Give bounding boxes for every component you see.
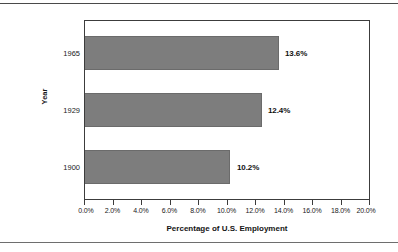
- x-tick: [227, 200, 228, 205]
- x-tick: [341, 200, 342, 205]
- x-axis-tick-label: 0.0%: [78, 207, 93, 214]
- bar-chart-figure: Year 1965 1929 1900 13.6% 12.4% 10.2%: [0, 0, 398, 252]
- bars-layer: 13.6% 12.4% 10.2%: [85, 21, 370, 200]
- bar-1900[interactable]: [85, 150, 230, 184]
- x-axis-tick-label: 8.0%: [190, 207, 205, 214]
- y-axis-tick-label: 1929: [50, 106, 80, 115]
- x-tick: [170, 200, 171, 205]
- x-axis-tick-label: 12.0%: [245, 207, 264, 214]
- x-axis-tick-label: 20.0%: [356, 207, 375, 214]
- bar-value-label: 13.6%: [285, 49, 307, 58]
- x-axis-tick-label: 6.0%: [162, 207, 177, 214]
- x-tick: [312, 200, 313, 205]
- x-tick: [141, 200, 142, 205]
- x-tick: [255, 200, 256, 205]
- bar-value-label: 12.4%: [268, 106, 290, 115]
- x-axis-tick-label: 16.0%: [302, 207, 321, 214]
- y-axis-category-labels: 1965 1929 1900: [48, 21, 80, 200]
- x-axis-tick-label: 14.0%: [274, 207, 293, 214]
- x-axis-tick-label: 18.0%: [331, 207, 350, 214]
- x-axis-tick-label: 10.0%: [217, 207, 236, 214]
- x-axis-tick-labels: 0.0% 2.0% 4.0% 6.0% 8.0% 10.0% 12.0% 14.…: [84, 207, 370, 219]
- x-axis-tick-label: 4.0%: [133, 207, 148, 214]
- x-axis-tick-label: 2.0%: [105, 207, 120, 214]
- bar-1965[interactable]: [85, 36, 279, 70]
- x-tick: [113, 200, 114, 205]
- x-tick: [84, 200, 85, 205]
- x-tick: [198, 200, 199, 205]
- y-axis-tick-label: 1965: [50, 49, 80, 58]
- x-axis-title: Percentage of U.S. Employment: [84, 224, 370, 233]
- bar-1929[interactable]: [85, 93, 262, 127]
- y-axis-tick-label: 1900: [50, 163, 80, 172]
- bar-value-label: 10.2%: [237, 163, 259, 172]
- x-tick: [369, 200, 370, 205]
- x-tick: [284, 200, 285, 205]
